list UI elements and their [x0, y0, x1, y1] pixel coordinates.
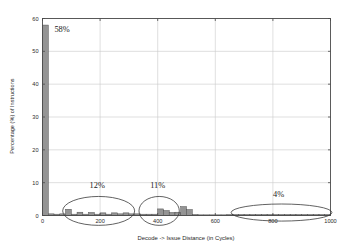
annotation-label: 11% [150, 181, 165, 190]
bar [175, 212, 181, 215]
y-tick-label: 0 [35, 213, 38, 219]
x-axis-title: Decode -> Issue Distance (in Cycles) [137, 235, 234, 241]
y-tick-label: 50 [32, 48, 38, 54]
bar [77, 212, 83, 215]
y-axis-title: Percentage (%) of Instructions [9, 78, 15, 153]
x-tick-label: 1000 [324, 218, 336, 224]
annotation-label: 4% [273, 190, 284, 199]
y-tick-label: 40 [32, 81, 38, 87]
y-tick-label: 20 [32, 147, 38, 153]
x-tick-label: 400 [153, 218, 162, 224]
y-tick-labels: 0102030405060 [32, 16, 38, 219]
bar [181, 207, 187, 216]
y-tick-label: 10 [32, 180, 38, 186]
annotation-label: 12% [90, 181, 105, 190]
bar [158, 209, 164, 216]
chart-container: 02004006008001000 0102030405060 58%12%11… [0, 0, 352, 248]
bar-chart: 02004006008001000 0102030405060 58%12%11… [0, 0, 352, 248]
x-tick-label: 0 [41, 218, 44, 224]
bar [43, 25, 49, 215]
bar [163, 211, 169, 216]
bar [187, 210, 193, 216]
x-tick-label: 200 [95, 218, 104, 224]
x-tick-label: 600 [211, 218, 220, 224]
y-tick-label: 60 [32, 16, 38, 22]
y-tick-label: 30 [32, 114, 38, 120]
annotation-label: 58% [54, 25, 69, 34]
bar [66, 209, 72, 215]
